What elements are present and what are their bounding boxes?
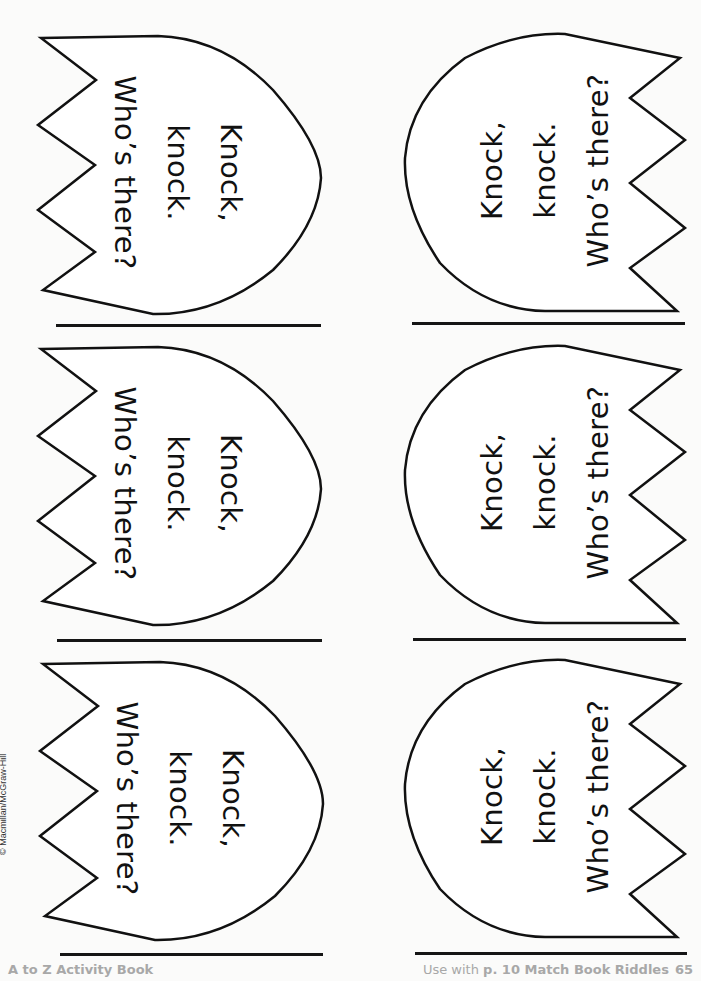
riddle-line-2: knock. bbox=[152, 124, 205, 221]
cut-line bbox=[56, 324, 321, 327]
riddle-line-1: Knock, bbox=[466, 433, 519, 532]
page-reference: Use with p. 10 Match Book Riddles65 bbox=[423, 962, 693, 977]
use-with-label: Use with bbox=[423, 962, 483, 977]
cut-line bbox=[60, 953, 323, 956]
riddle-card-left-row1: Knock, knock. Who’s there? bbox=[33, 30, 323, 315]
riddle-line-2: knock. bbox=[152, 435, 205, 532]
cut-line bbox=[412, 322, 685, 325]
cut-line bbox=[415, 952, 687, 955]
riddle-line-1: Knock, bbox=[207, 749, 260, 848]
riddle-card-right-row3: Knock, knock. Who’s there? bbox=[400, 654, 690, 939]
riddle-text: Knock, knock. Who’s there? bbox=[400, 340, 690, 625]
cut-line bbox=[57, 639, 322, 642]
riddle-card-left-row2: Knock, knock. Who’s there? bbox=[33, 341, 323, 626]
riddle-line-2: knock. bbox=[519, 748, 572, 845]
riddle-line-1: Knock, bbox=[466, 747, 519, 846]
riddle-line-3: Who’s there? bbox=[572, 699, 625, 893]
copyright-notice: © Macmillan/McGraw-Hill bbox=[0, 754, 8, 855]
riddle-text: Knock, knock. Who’s there? bbox=[400, 28, 690, 313]
riddle-text: Knock, knock. Who’s there? bbox=[35, 656, 325, 941]
riddle-line-3: Who’s there? bbox=[101, 701, 154, 895]
riddle-card-right-row1: Knock, knock. Who’s there? bbox=[400, 28, 690, 313]
riddle-card-right-row2: Knock, knock. Who’s there? bbox=[400, 340, 690, 625]
riddle-card-left-row3: Knock, knock. Who’s there? bbox=[35, 656, 325, 941]
book-title: A to Z Activity Book bbox=[8, 962, 153, 977]
riddle-line-3: Who’s there? bbox=[572, 73, 625, 267]
page-number: 65 bbox=[675, 962, 693, 977]
riddle-line-2: knock. bbox=[519, 122, 572, 219]
riddle-line-1: Knock, bbox=[205, 123, 258, 222]
riddle-line-3: Who’s there? bbox=[572, 385, 625, 579]
riddle-line-1: Knock, bbox=[466, 121, 519, 220]
cut-line bbox=[413, 638, 686, 641]
riddle-text: Knock, knock. Who’s there? bbox=[400, 654, 690, 939]
riddle-line-2: knock. bbox=[154, 750, 207, 847]
riddle-text: Knock, knock. Who’s there? bbox=[33, 30, 323, 315]
riddle-line-1: Knock, bbox=[205, 434, 258, 533]
riddle-line-2: knock. bbox=[519, 434, 572, 531]
riddle-text: Knock, knock. Who’s there? bbox=[33, 341, 323, 626]
page-ref-title: p. 10 Match Book Riddles bbox=[483, 962, 669, 977]
riddle-line-3: Who’s there? bbox=[99, 75, 152, 269]
riddle-line-3: Who’s there? bbox=[99, 386, 152, 580]
